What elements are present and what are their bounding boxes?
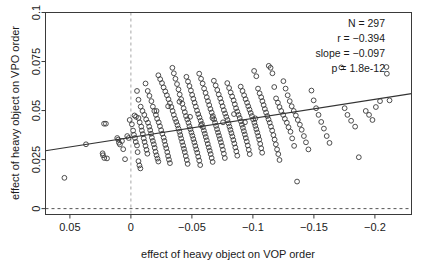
scatter-plot-figure: 0.050−0.05−0.1−0.15−0.200.0250.050.0750.…: [0, 0, 424, 271]
x-axis-tick-label: −0.05: [178, 221, 206, 233]
y-axis-title: effect of heavy object on VPO order: [9, 26, 21, 200]
x-axis-tick-label: −0.15: [300, 221, 328, 233]
y-axis-tick-label: 0: [30, 206, 42, 212]
y-axis-tick-label: 0.05: [30, 100, 42, 121]
y-axis-title-text: effect of heavy object on VPO order: [9, 26, 21, 200]
annotation-slope: slope = −0.097: [316, 47, 386, 59]
x-axis-title-text: effect of heavy object on VOP order: [141, 248, 315, 260]
y-axis-tick-label: 0.025: [30, 146, 42, 174]
annotation-r: r = −0.394: [337, 32, 385, 44]
x-axis-tick-label: −0.1: [242, 221, 264, 233]
x-axis-tick-label: −0.2: [364, 221, 386, 233]
annotation-n: N = 297: [348, 17, 385, 29]
x-axis-title: effect of heavy object on VOP order: [141, 248, 315, 260]
x-axis-tick-label: 0.05: [59, 221, 80, 233]
x-axis-tick-label: 0: [128, 221, 134, 233]
y-axis-tick-label: 0.075: [30, 48, 42, 76]
plot-canvas: 0.050−0.05−0.1−0.15−0.200.0250.050.0750.…: [0, 0, 424, 271]
y-axis-tick-label: 0.1: [30, 5, 42, 20]
annotation-p: p = 1.8e-12: [332, 62, 386, 74]
